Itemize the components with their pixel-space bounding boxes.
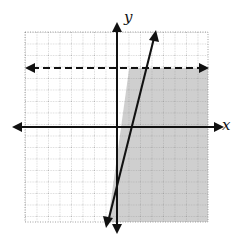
x-axis-label: x [222, 118, 230, 133]
coordinate-graph [0, 0, 242, 241]
y-axis-label: y [124, 10, 132, 25]
